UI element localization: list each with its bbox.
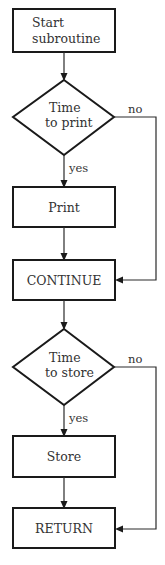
arrow-left-icon bbox=[115, 526, 123, 533]
node-decision-store: Time to store bbox=[13, 329, 114, 405]
node-print: Print bbox=[13, 187, 115, 227]
decision-store-line2: to store bbox=[45, 365, 94, 380]
arrow-left-icon bbox=[115, 277, 123, 284]
edge-label-no-print: no bbox=[128, 102, 142, 116]
decision-store-line1: Time bbox=[49, 350, 81, 365]
edge-store-to-return bbox=[61, 477, 68, 509]
edge-start-to-decision-print bbox=[61, 52, 68, 81]
edge-decision-store-yes: yes bbox=[61, 405, 89, 437]
return-label: RETURN bbox=[35, 521, 93, 536]
start-label-line2: subroutine bbox=[32, 31, 101, 46]
node-start: Start subroutine bbox=[13, 9, 115, 52]
node-decision-print: Time to print bbox=[13, 80, 114, 155]
edge-decision-print-no: no bbox=[114, 102, 156, 284]
store-label: Store bbox=[47, 449, 82, 464]
flowchart: Start subroutine Time to print no yes Pr… bbox=[0, 0, 165, 565]
node-store: Store bbox=[13, 436, 115, 477]
start-label-line1: Start bbox=[32, 15, 64, 30]
edge-label-yes-store: yes bbox=[68, 411, 88, 425]
edge-decision-store-no: no bbox=[114, 352, 156, 533]
decision-print-line1: Time bbox=[49, 100, 81, 115]
node-return: RETURN bbox=[13, 508, 115, 548]
continue-label: CONTINUE bbox=[27, 273, 102, 288]
print-label: Print bbox=[48, 200, 79, 215]
edge-label-yes-print: yes bbox=[68, 161, 88, 175]
edge-continue-to-decision-store bbox=[61, 300, 68, 330]
edge-print-to-continue bbox=[61, 227, 68, 261]
edge-label-no-store: no bbox=[128, 352, 142, 366]
edge-decision-print-yes: yes bbox=[61, 155, 89, 188]
node-continue: CONTINUE bbox=[13, 260, 115, 300]
decision-print-line2: to print bbox=[45, 115, 93, 130]
